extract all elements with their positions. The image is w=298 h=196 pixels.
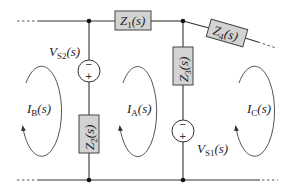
minus-sign: − — [180, 118, 186, 130]
svg-text:Z3(s): Z3(s) — [176, 57, 193, 82]
node-top-right — [181, 19, 186, 24]
voltage-source-vs2: − + VS2(s) — [49, 44, 100, 82]
mesh-current-ic: IC(s) — [236, 66, 275, 156]
vs2-label: VS2(s) — [49, 44, 80, 61]
ic-label: IC(s) — [246, 101, 271, 118]
ia-label: IA(s) — [126, 101, 152, 118]
plus-sign: + — [86, 70, 92, 82]
mesh-current-ib: IB(s) — [23, 66, 62, 156]
impedance-z3: Z3(s) — [173, 47, 193, 85]
circuit-diagram: Z1(s) Z2(s) Z3(s) Z4(s) − + VS2(s) − + V… — [0, 0, 298, 196]
svg-text:Z1(s): Z1(s) — [120, 13, 145, 30]
impedance-z4: Z4(s) — [206, 19, 248, 48]
mesh-current-ia: IA(s) — [120, 67, 157, 157]
node-bottom-left — [87, 178, 92, 183]
node-bottom-right — [181, 178, 186, 183]
vs1-label: VS1(s) — [197, 141, 228, 158]
ib-label: IB(s) — [26, 101, 51, 118]
impedance-z1: Z1(s) — [115, 11, 151, 30]
node-top-left — [87, 19, 92, 24]
voltage-source-vs1: − + VS1(s) — [172, 118, 228, 158]
impedance-z2: Z2(s) — [79, 115, 99, 153]
plus-sign: + — [180, 130, 186, 142]
minus-sign: − — [86, 58, 92, 70]
svg-text:Z2(s): Z2(s) — [82, 125, 99, 150]
